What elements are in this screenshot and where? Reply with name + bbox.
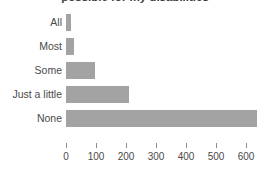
x-tick-label: 200 (118, 151, 135, 162)
x-tick-mark (156, 143, 157, 148)
bar-most (66, 38, 74, 55)
chart-title: possible for my disabilities (0, 0, 270, 3)
bar-row (66, 110, 257, 127)
bar-just-a-little (66, 86, 129, 103)
x-tick-mark (216, 143, 217, 148)
x-tick-mark (66, 143, 67, 148)
bar-row (66, 38, 74, 55)
bar-chart: possible for my disabilities All Most So… (0, 0, 270, 173)
category-label-none: None (0, 110, 62, 127)
category-label-all: All (0, 14, 62, 31)
bar-none (66, 110, 257, 127)
x-tick-label: 100 (88, 151, 105, 162)
bar-row (66, 62, 95, 79)
x-tick-label: 500 (208, 151, 225, 162)
x-tick-label: 0 (63, 151, 69, 162)
plot-area (66, 14, 264, 140)
x-tick-mark (126, 143, 127, 148)
bar-all (66, 14, 71, 31)
x-tick-label: 300 (148, 151, 165, 162)
x-tick-mark (246, 143, 247, 148)
bar-row (66, 86, 129, 103)
bar-some (66, 62, 95, 79)
category-axis: All Most Some Just a little None (0, 14, 62, 140)
bar-row (66, 14, 71, 31)
x-tick-label: 600 (238, 151, 255, 162)
category-label-just-a-little: Just a little (0, 86, 62, 103)
x-tick-mark (96, 143, 97, 148)
value-axis: 0100200300400500600 (66, 143, 264, 169)
category-label-most: Most (0, 38, 62, 55)
category-label-some: Some (0, 62, 62, 79)
x-tick-label: 400 (178, 151, 195, 162)
x-tick-mark (186, 143, 187, 148)
